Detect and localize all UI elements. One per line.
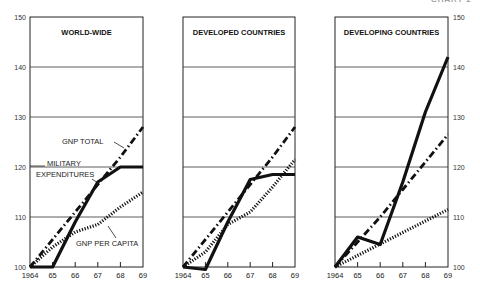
y-tick-label: 130	[14, 114, 26, 121]
x-tick-label: 66	[376, 271, 384, 280]
x-tick-label: 69	[444, 271, 452, 280]
x-tick-label: 68	[421, 271, 429, 280]
y-tick-label: 150	[453, 14, 465, 21]
panel-frame	[183, 17, 295, 267]
y-tick-label: 150	[14, 14, 26, 21]
series-solid	[335, 57, 448, 267]
y-tick-label: 140	[453, 64, 465, 71]
x-tick-label: 67	[246, 271, 254, 280]
panel-frame	[335, 17, 448, 267]
x-tick-label: 1964	[327, 271, 344, 280]
x-tick-label: 69	[291, 271, 299, 280]
x-tick-label: 65	[201, 271, 209, 280]
x-tick-label: 69	[139, 271, 147, 280]
y-tick-label: 100	[14, 264, 26, 271]
annotation-military: MILITARY	[47, 159, 81, 168]
x-tick-label: 1964	[22, 271, 39, 280]
x-tick-label: 65	[48, 271, 56, 280]
y-tick-label: 110	[453, 214, 464, 221]
y-tick-label: 110	[15, 214, 26, 221]
y-tick-label: 140	[14, 64, 26, 71]
annotation-expenditures: EXPENDITURES	[36, 170, 94, 179]
panel-title: WORLD-WIDE	[61, 28, 111, 37]
x-tick-label: 68	[116, 271, 124, 280]
series-dash-dot	[183, 127, 295, 267]
x-tick-label: 66	[224, 271, 232, 280]
x-tick-label: 66	[71, 271, 79, 280]
y-tick-label: 120	[453, 164, 465, 171]
annotation-gnp-per-capita: GNP PER CAPITA	[76, 239, 138, 248]
panel-title: DEVELOPING COUNTRIES	[344, 28, 439, 37]
series-dotted	[335, 210, 448, 268]
x-tick-label: 67	[399, 271, 407, 280]
chart-figure: 19646566676869100110120130140150WORLD-WI…	[0, 0, 480, 298]
y-tick-label: 120	[14, 164, 26, 171]
x-tick-label: 65	[353, 271, 361, 280]
annotation-gnp-total: GNP TOTAL	[62, 137, 104, 146]
x-tick-label: 1964	[175, 271, 192, 280]
x-tick-label: 67	[94, 271, 102, 280]
y-tick-label: 100	[453, 264, 465, 271]
x-tick-label: 68	[268, 271, 276, 280]
y-tick-label: 130	[453, 114, 465, 121]
panel-title: DEVELOPED COUNTRIES	[193, 28, 286, 37]
